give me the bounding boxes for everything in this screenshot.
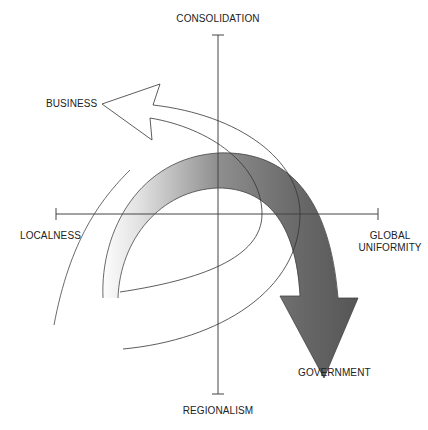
government-label: GOVERNMENT <box>298 366 371 379</box>
axis-label-right-line2: UNIFORMITY <box>352 241 428 254</box>
business-label: BUSINESS <box>46 97 97 110</box>
axis-label-bottom: REGIONALISM <box>160 404 276 417</box>
axis-label-left: LOCALNESS <box>20 229 81 242</box>
axis-label-top: CONSOLIDATION <box>160 12 276 25</box>
